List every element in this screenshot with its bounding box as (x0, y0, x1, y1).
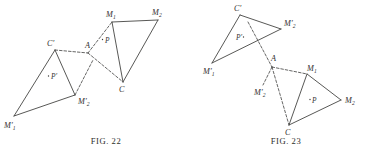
figure-23-graphic: C′ M′2 M′1 P′ A M′2 M1 M2 C P (202, 4, 355, 137)
fig22-edge-m2-m1 (112, 20, 158, 22)
fig22-dash-a-c (88, 53, 123, 82)
fig22-edge-m1prime-cprime (14, 50, 55, 116)
fig22-edge-c-m2 (123, 20, 158, 82)
fig22-label-p-prime: P′ (50, 72, 58, 81)
fig23-label-m2: M2 (344, 96, 355, 106)
fig23-dash-cprime-a (248, 22, 272, 67)
fig22-label-p: P (104, 36, 110, 45)
fig23-label-m1-prime: M′1 (202, 67, 215, 77)
fig22-edge-m2prime-m1prime (14, 95, 75, 116)
fig23-label-m2-prime-lower: M′2 (253, 88, 266, 98)
fig22-label-a: A (84, 41, 91, 50)
figure-22-graphic: C′ A M′1 M′2 P′ M1 M2 C P (3, 8, 162, 131)
fig23-label-a: A (270, 54, 277, 63)
fig22-label-m1: M1 (105, 10, 116, 20)
fig23-dash-a-c (272, 67, 289, 125)
fig23-point-pprime-marker (243, 36, 244, 37)
fig23-label-p: P (311, 96, 317, 105)
figure-plate: C′ A M′1 M′2 P′ M1 M2 C P (0, 0, 367, 160)
fig22-point-pprime-marker (48, 75, 49, 76)
fig22-edge-m1-c (112, 22, 123, 82)
fig22-edge-cprime-m2prime (55, 50, 75, 95)
fig23-label-c-prime: C′ (234, 4, 242, 13)
fig23-label-m2-prime: M′2 (283, 19, 296, 29)
fig22-label-m1-prime: M′1 (3, 121, 16, 131)
fig22-label-m2-prime: M′2 (77, 97, 90, 107)
fig22-dash-cprime-a (55, 50, 88, 53)
fig23-dash-a-m2prime (263, 67, 272, 85)
fig23-label-p-prime: P′ (235, 33, 243, 42)
fig22-label-m2: M2 (151, 8, 162, 18)
fig22-point-p-marker (102, 39, 103, 40)
fig23-point-p-marker (309, 99, 310, 100)
fig22-label-c: C (119, 85, 125, 94)
fig23-label-m1: M1 (306, 64, 317, 74)
fig22-dash-m2prime-a (75, 60, 93, 95)
figure-23-caption: FIG. 23 (258, 136, 314, 146)
fig23-dash-a-m1 (272, 67, 307, 74)
fig23-edge-cprime-m2prime (240, 15, 281, 29)
fig22-label-c-prime: C′ (47, 39, 55, 48)
figure-22-caption: FIG. 22 (78, 136, 134, 146)
